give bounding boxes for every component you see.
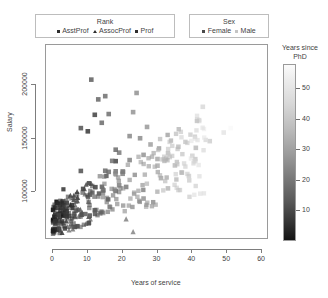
data-point [187,195,191,199]
data-point [160,157,164,161]
rank-legend: Rank AsstProf AssocProf Prof [35,14,175,38]
data-point [109,187,113,191]
data-point [103,168,108,173]
data-point [128,196,132,200]
data-point [88,189,92,193]
data-point [64,199,68,203]
data-point [175,147,179,151]
data-point [175,160,179,164]
data-point [134,91,139,96]
data-point [158,137,162,141]
data-point [92,195,96,199]
data-point [197,174,201,178]
data-point [198,191,202,195]
data-point [51,229,55,233]
data-point [131,110,136,115]
data-point [170,144,174,148]
y-axis-line [35,84,36,191]
data-point [158,173,162,177]
data-point [169,138,173,142]
data-point [196,163,200,167]
data-point [179,135,183,139]
data-point [136,189,140,193]
x-axis-tick [52,249,53,253]
data-point [195,119,199,123]
legend-label: Male [241,27,256,35]
data-point [118,186,122,190]
triangle-marker-icon [93,30,97,33]
colorbar-tick-label: 20 [302,176,310,183]
x-axis-tick [261,249,262,253]
data-point [127,158,132,163]
data-point [81,187,85,191]
data-point [75,189,80,194]
colorbar [283,64,296,241]
data-point [102,182,106,186]
colorbar-tick [296,119,300,120]
x-axis-tick [122,249,123,253]
legend-item-assocprof: AssocProf [93,27,131,35]
colorbar-tick-label: 30 [302,145,310,152]
data-point [178,188,182,192]
sex-legend-items: Female Male [190,27,268,35]
data-point [97,191,101,195]
y-axis-title: Salary [6,112,13,132]
colorbar-tick [296,210,300,211]
data-point [102,174,106,178]
data-point [174,132,178,136]
data-point [57,226,61,230]
x-axis-tick [191,249,192,253]
data-point [127,134,132,139]
data-point [187,178,191,182]
data-point [136,155,140,159]
data-point [151,200,155,204]
data-point [79,169,84,174]
data-point [141,153,146,158]
colorbar-tick-label: 50 [302,84,310,91]
colorbar-gradient [284,65,295,240]
data-point [156,148,160,152]
square-marker-icon [202,30,205,33]
x-axis-tick-label: 0 [50,255,54,262]
data-point [194,128,198,132]
x-axis-tick-label: 40 [187,255,195,262]
data-point [80,190,84,194]
data-point [89,77,94,82]
data-point [166,147,170,151]
data-point [194,146,199,151]
x-axis-tick [226,249,227,253]
data-point [55,201,59,205]
data-point [185,141,189,145]
legend-item-asstprof: AsstProf [57,27,89,35]
data-point [155,189,159,193]
data-point [79,126,84,131]
data-point [88,213,92,217]
y-axis-tick-label: 150000 [21,126,28,149]
data-point [148,142,153,147]
data-point [127,203,131,207]
data-point [66,195,70,199]
data-point [92,208,96,212]
data-point [138,136,143,141]
data-point [100,210,104,214]
data-point [126,163,130,167]
data-point [179,170,183,174]
data-point [165,133,169,137]
scatter-plot-panel [45,44,268,239]
data-point [121,170,125,174]
data-point [153,165,157,169]
square-marker-icon [235,30,238,33]
data-point [145,125,150,130]
y-axis-tick [31,138,35,139]
data-point [201,148,205,152]
data-point [200,126,204,130]
data-point [127,178,131,182]
data-point [61,221,65,225]
data-point [101,187,105,191]
data-point [103,94,108,99]
data-point [99,120,104,125]
data-point [132,192,136,196]
y-axis-tick [31,84,35,85]
data-point [221,130,226,135]
data-point [110,159,115,164]
